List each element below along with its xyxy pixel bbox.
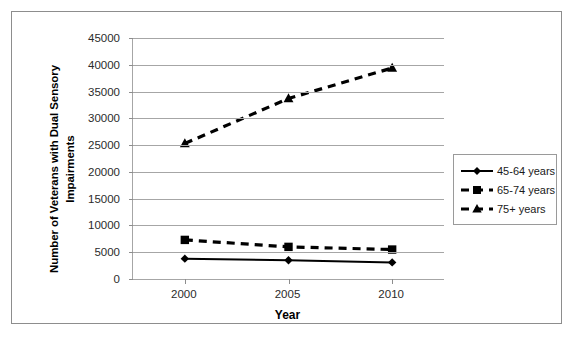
gridline [133,145,444,146]
data-point-marker [181,254,189,262]
y-axis-tick-label: 30000 [52,112,120,124]
y-axis-tick-label: 40000 [52,59,120,71]
y-axis-tick-mark [129,65,133,66]
gridline [133,252,444,253]
x-axis-tick-label: 2000 [149,288,219,300]
y-axis-tick-mark [129,199,133,200]
gridline [133,92,444,93]
plot-area [132,38,444,280]
legend-item-label: 75+ years [497,203,546,215]
x-axis-tick-labels: 200020052010 [132,288,443,304]
gridline [133,38,444,39]
legend-key-icon [460,164,494,178]
data-point-marker [388,258,396,266]
legend-item[interactable]: 65-74 years [460,180,549,199]
y-axis-tick-mark [129,92,133,93]
y-axis-tick-label: 5000 [52,246,120,258]
legend-item-label: 65-74 years [497,184,555,196]
gridline [133,172,444,173]
series-line [185,68,392,144]
y-axis-tick-label: 25000 [52,139,120,151]
x-axis-tick-mark [185,279,186,284]
series-3 [180,63,397,147]
y-axis-tick-label: 35000 [52,86,120,98]
legend-key-icon [460,202,494,216]
legend-item[interactable]: 75+ years [460,199,549,218]
y-axis-tick-mark [129,118,133,119]
gridline [133,199,444,200]
legend-key-icon [460,183,494,197]
x-axis-title: Year [132,308,443,322]
y-axis-tick-label: 45000 [52,32,120,44]
y-axis-tick-mark [129,279,133,280]
y-axis-tick-label: 15000 [52,193,120,205]
data-point-marker [284,256,292,264]
gridline [133,65,444,66]
data-point-marker [284,243,292,251]
series-plot [133,38,444,279]
y-axis-tick-mark [129,145,133,146]
chart-figure-frame: Number of Veterans with Dual Sensory Imp… [11,11,562,324]
y-axis-tick-label: 10000 [52,219,120,231]
y-axis-tick-mark [129,252,133,253]
y-axis-tick-label: 20000 [52,166,120,178]
x-axis-tick-mark [289,279,290,284]
gridline [133,118,444,119]
x-axis-tick-label: 2010 [356,288,426,300]
series-1 [181,254,397,266]
x-axis-tick-mark [392,279,393,284]
legend-item-label: 45-64 years [497,165,555,177]
y-axis-tick-label: 0 [52,273,120,285]
gridline [133,225,444,226]
y-axis-tick-mark [129,225,133,226]
series-2 [181,236,397,254]
x-axis-tick-label: 2005 [253,288,323,300]
y-axis-tick-labels: 4500040000350003000025000200001500010000… [52,30,120,287]
data-point-marker [181,236,189,244]
y-axis-tick-mark [129,38,133,39]
legend-item[interactable]: 45-64 years [460,161,549,180]
chart-legend: 45-64 years65-74 years75+ years [453,154,557,225]
y-axis-tick-mark [129,172,133,173]
